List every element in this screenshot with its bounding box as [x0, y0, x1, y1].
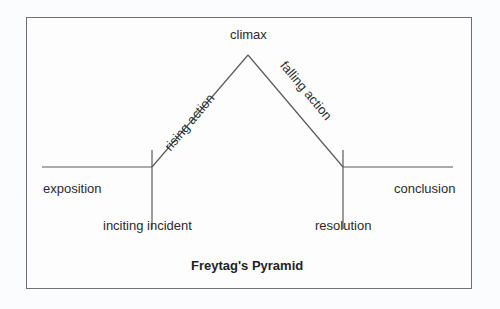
inciting-incident-label: inciting incident [103, 219, 192, 232]
exposition-label: exposition [43, 182, 102, 195]
diagram-title: Freytag's Pyramid [191, 259, 303, 272]
climax-label: climax [230, 28, 267, 41]
resolution-label: resolution [315, 219, 371, 232]
conclusion-label: conclusion [394, 182, 455, 195]
